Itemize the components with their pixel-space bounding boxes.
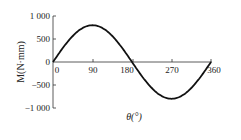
x-tick-label: 360 [207, 65, 221, 75]
x-tick-label: 180 [120, 65, 134, 75]
bending-moment-chart: 1 000 500 0 −500 −1 000 0 90 180 270 360… [0, 0, 241, 140]
y-tick-label: 1 000 [30, 11, 51, 21]
x-tick-label: 90 [89, 65, 99, 75]
y-axis-title: M(N·mm) [15, 41, 27, 83]
y-tick-label: 0 [46, 57, 51, 67]
x-axis-title: θ(°) [126, 111, 142, 123]
x-tick-label: 270 [165, 65, 179, 75]
x-tick-label: 0 [55, 65, 60, 75]
y-tick-label: 500 [37, 34, 51, 44]
x-ticks [93, 59, 211, 62]
y-tick-label: −500 [31, 80, 50, 90]
y-tick-label: −1 000 [25, 103, 51, 113]
y-tick-labels: 1 000 500 0 −500 −1 000 [25, 11, 51, 113]
